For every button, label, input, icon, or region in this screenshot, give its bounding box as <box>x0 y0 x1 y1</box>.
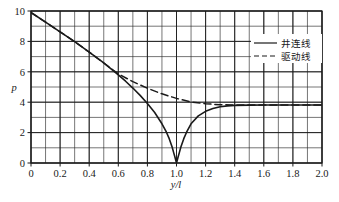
x-tick-label: 1.8 <box>286 168 299 179</box>
y-tick-label: 0 <box>20 158 25 169</box>
x-tick-label: 0.2 <box>54 168 67 179</box>
legend-label-2: 驱动线 <box>281 51 311 62</box>
x-tick-label: 1.2 <box>199 168 212 179</box>
x-tick-label: 2.0 <box>315 168 328 179</box>
x-axis-label: y/l <box>170 179 182 190</box>
x-tick-label: 0 <box>28 168 33 179</box>
y-tick-label: 6 <box>20 67 25 78</box>
y-tick-label: 8 <box>20 36 25 47</box>
x-tick-label: 1.0 <box>170 168 183 179</box>
x-tick-label: 1.6 <box>257 168 270 179</box>
legend-label-1: 井连线 <box>281 38 311 49</box>
y-tick-label: 4 <box>20 97 26 108</box>
y-tick-label: 10 <box>15 6 26 17</box>
x-tick-label: 0.6 <box>112 168 125 179</box>
y-axis-label: p <box>10 82 16 93</box>
x-tick-label: 0.4 <box>83 168 97 179</box>
x-tick-label: 1.4 <box>228 168 242 179</box>
y-tick-label: 2 <box>20 127 25 138</box>
x-tick-label: 0.8 <box>141 168 154 179</box>
pressure-distribution-chart: 00.20.40.60.81.01.21.41.61.82.0 0246810 … <box>0 0 339 202</box>
chart-legend: 井连线驱动线 <box>251 34 322 63</box>
